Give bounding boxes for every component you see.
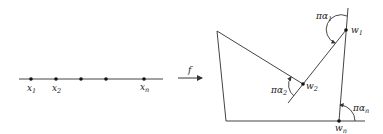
polygon: w1 w2 wn πα1 πα2 παn — [217, 8, 369, 134]
point-x2 — [54, 77, 58, 81]
point-x1 — [29, 77, 33, 81]
label-xn: xn — [140, 82, 149, 94]
label-w1: w1 — [351, 25, 363, 37]
angle-arc-a2 — [289, 77, 294, 96]
edge-w1-wn-extended — [339, 8, 348, 121]
label-angle-a1: πα1 — [315, 11, 332, 23]
edge-topleft-w2 — [217, 31, 303, 84]
label-angle-a2: πα2 — [270, 85, 287, 97]
point-xn — [142, 77, 146, 81]
vertex-w1 — [344, 28, 348, 32]
map-arrow: f — [178, 65, 202, 78]
vertex-w2 — [301, 82, 305, 86]
label-x1: x1 — [27, 83, 36, 95]
point-x4 — [104, 77, 108, 81]
label-angle-an: παn — [352, 103, 369, 115]
real-line: x1 x2 xn — [19, 77, 163, 95]
map-label-f: f — [187, 65, 193, 75]
edge-left — [217, 31, 226, 121]
label-wn: wn — [335, 123, 347, 134]
label-w2: w2 — [306, 81, 318, 93]
diagram-canvas: x1 x2 xn f w1 w2 wn πα1 πα2 παn — [0, 0, 383, 134]
label-x2: x2 — [52, 83, 61, 95]
point-x3 — [79, 77, 83, 81]
